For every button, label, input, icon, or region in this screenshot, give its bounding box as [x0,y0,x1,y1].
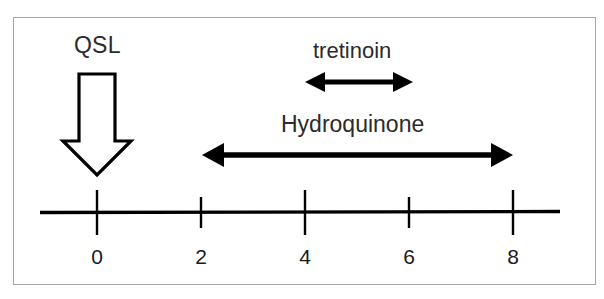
tretinoin-label: tretinoin [313,40,391,62]
hydroquinone-span-arrow-icon [202,143,513,167]
qsl-label: QSL [74,34,121,57]
hydroquinone-label: Hydroquinone [281,113,424,136]
axis-tick-label-6: 6 [389,246,429,267]
qsl-hollow-down-arrow-icon [63,74,131,175]
axis-tick-label-4: 4 [285,246,325,267]
axis-tick-label-8: 8 [493,246,533,267]
number-line-axis [40,190,560,235]
figure-root: QSL tretinoin Hydroquinone 0 2 4 6 8 [0,0,604,299]
axis-line [40,212,560,213]
axis-tick-label-0: 0 [77,246,117,267]
axis-tick-label-2: 2 [181,246,221,267]
tretinoin-span-arrow-icon [305,72,413,92]
